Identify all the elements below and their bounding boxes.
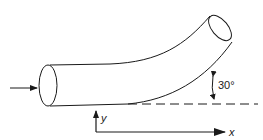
x-axis-label: x [228, 126, 235, 138]
pipe-lower-wall [50, 42, 232, 106]
angle-label: 30° [218, 79, 235, 91]
inlet-cross-section [39, 65, 57, 106]
diagram-svg: 30° y x [0, 0, 263, 140]
outlet-cross-section [204, 11, 236, 44]
angle-arc-arrow [212, 76, 214, 99]
y-axis-label: y [100, 112, 108, 124]
pipe-upper-wall [50, 16, 210, 65]
bent-pipe-diagram: 30° y x [0, 0, 263, 140]
